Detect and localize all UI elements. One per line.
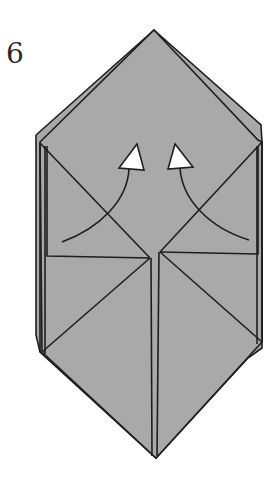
origami-diagram: [0, 0, 275, 487]
center-left-line: [151, 258, 152, 456]
